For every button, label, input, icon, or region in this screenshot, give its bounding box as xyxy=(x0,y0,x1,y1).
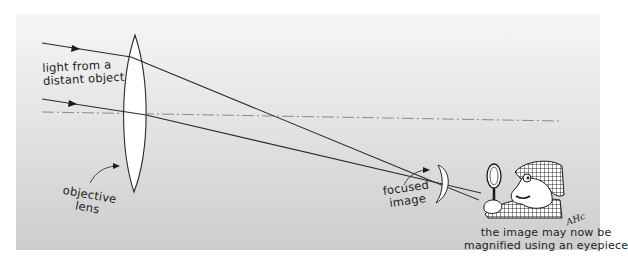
incoming-light-label: light from a distant object xyxy=(42,58,125,88)
objective-pointer-arrow xyxy=(90,166,116,183)
eyepiece-caption-line1: the image may now be xyxy=(481,226,612,239)
eyepiece-caption-line2: magnified using an eyepiece xyxy=(464,239,628,252)
magnifying-glass-icon xyxy=(487,164,501,188)
optical-axis xyxy=(42,112,560,121)
refracted-ray-top xyxy=(131,57,434,182)
arrow-icon xyxy=(68,100,77,107)
incoming-ray-top xyxy=(42,43,131,57)
eyepiece-caption: the image may now be magnified using an … xyxy=(464,226,628,252)
detective-with-magnifying-glass xyxy=(484,161,564,218)
refracted-ray-bottom xyxy=(146,115,434,182)
arrow-icon xyxy=(423,167,430,173)
arrow-icon xyxy=(113,163,120,169)
arrow-icon xyxy=(71,45,80,52)
